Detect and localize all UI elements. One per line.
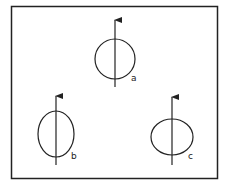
- label-c: c: [188, 151, 193, 161]
- label-b: b: [71, 151, 77, 161]
- figure-b: b: [38, 96, 77, 165]
- diagram-canvas: a b c: [0, 0, 227, 186]
- label-a: a: [131, 73, 137, 83]
- figure-c: c: [151, 97, 193, 165]
- figure-a: a: [95, 20, 137, 87]
